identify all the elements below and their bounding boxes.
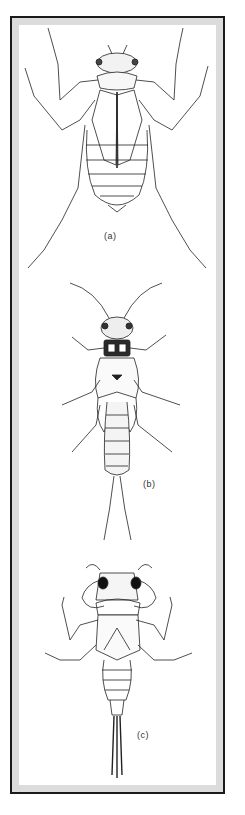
panel-c-drawing xyxy=(0,0,245,815)
panel-c-label: (c) xyxy=(137,730,149,740)
